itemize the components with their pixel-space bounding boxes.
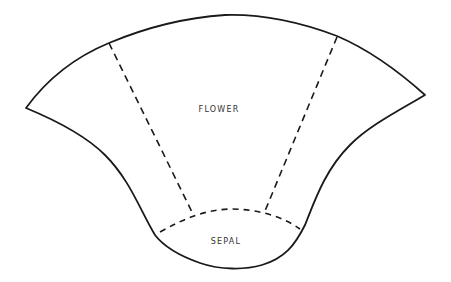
sepal-fold-arc <box>160 209 300 232</box>
outer-outline <box>26 15 425 269</box>
left-fold-line <box>109 43 192 212</box>
sepal-label: SEPAL <box>211 237 241 246</box>
right-fold-line <box>265 37 337 211</box>
pattern-diagram: FLOWER SEPAL <box>0 0 451 282</box>
flower-label: FLOWER <box>199 105 240 114</box>
